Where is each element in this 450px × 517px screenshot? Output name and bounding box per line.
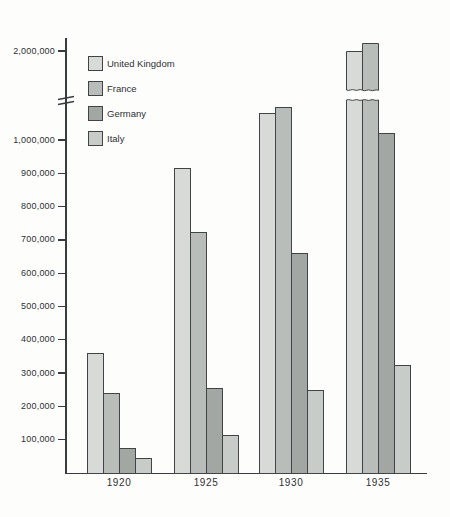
- legend-swatch-icon: [88, 56, 103, 71]
- bar-italy-1930: [307, 390, 324, 474]
- bar-france-1925: [190, 232, 207, 474]
- y-tick-label: 200,000: [0, 401, 55, 412]
- legend-label: Germany: [107, 106, 146, 121]
- bar-italy-1925: [222, 435, 239, 474]
- y-tick-mark: [58, 306, 66, 307]
- y-tick-label: 2,000,000: [0, 46, 55, 57]
- x-tick-label-1920: 1920: [97, 477, 141, 489]
- y-tick-mark: [58, 206, 66, 207]
- bar-united-kingdom-1930: [259, 113, 276, 474]
- y-tick-mark: [58, 339, 66, 340]
- x-tick-label-1925: 1925: [184, 477, 228, 489]
- y-tick-mark: [58, 50, 66, 51]
- legend-item-france: France: [88, 81, 137, 96]
- y-tick-mark: [58, 139, 66, 140]
- bar-germany-1920: [119, 448, 136, 474]
- x-tick-label-1930: 1930: [269, 477, 313, 489]
- bar-france-1930: [275, 107, 292, 474]
- bar-italy-1935: [394, 365, 411, 474]
- legend-item-united-kingdom: United Kingdom: [88, 56, 175, 71]
- legend-swatch-icon: [88, 106, 103, 121]
- y-axis-break-icon: [56, 92, 76, 110]
- legend-swatch-icon: [88, 131, 103, 146]
- bar-united-kingdom-1925: [174, 168, 191, 474]
- y-tick-label: 100,000: [0, 434, 55, 445]
- y-tick-label: 300,000: [0, 368, 55, 379]
- legend-label: France: [107, 81, 137, 96]
- legend-swatch-icon: [88, 81, 103, 96]
- y-tick-label: 800,000: [0, 201, 55, 212]
- y-tick-mark: [58, 439, 66, 440]
- legend-label: United Kingdom: [107, 56, 175, 71]
- x-tick-label-1935: 1935: [356, 477, 400, 489]
- plot-area: 100,000200,000300,000400,000500,000600,0…: [0, 0, 450, 517]
- legend-label: Italy: [107, 131, 124, 146]
- bar-united-kingdom-broken-lower: [346, 98, 363, 476]
- y-tick-label: 1,000,000: [0, 135, 55, 146]
- bar-germany-1930: [291, 253, 308, 474]
- y-tick-label: 700,000: [0, 234, 55, 245]
- y-tick-label: 900,000: [0, 168, 55, 179]
- bar-chart-figure: 100,000200,000300,000400,000500,000600,0…: [0, 0, 450, 517]
- bar-united-kingdom-broken-upper: [346, 51, 363, 94]
- y-tick-label: 600,000: [0, 268, 55, 279]
- bar-france-broken-upper: [362, 43, 379, 95]
- y-tick-mark: [58, 406, 66, 407]
- bar-italy-1920: [135, 458, 152, 474]
- bar-germany-1925: [206, 388, 223, 474]
- y-tick-mark: [58, 239, 66, 240]
- y-tick-label: 500,000: [0, 301, 55, 312]
- bar-united-kingdom-1920: [87, 353, 104, 474]
- y-tick-mark: [58, 372, 66, 373]
- bar-germany-1935: [378, 133, 395, 474]
- legend-item-germany: Germany: [88, 106, 146, 121]
- y-tick-mark: [58, 173, 66, 174]
- bar-france-1920: [103, 393, 120, 474]
- legend-item-italy: Italy: [88, 131, 124, 146]
- y-tick-label: 400,000: [0, 334, 55, 345]
- y-tick-mark: [58, 273, 66, 274]
- bar-france-broken-lower: [362, 98, 379, 476]
